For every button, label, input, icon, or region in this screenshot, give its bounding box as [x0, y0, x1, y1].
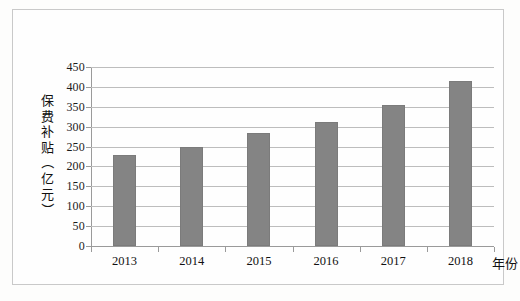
x-tickmark-6: [494, 247, 495, 252]
y-axis-title-char-2: 补: [39, 124, 56, 140]
x-label-2017: 2017: [381, 254, 406, 269]
y-axis-title-char-3: 贴: [39, 140, 56, 156]
y-tick-0: 0: [79, 239, 85, 254]
y-axis-title: 保费补贴（亿元）: [39, 93, 56, 218]
bar-2017: [382, 105, 405, 246]
gridline-200: [91, 166, 494, 167]
bar-2014: [180, 147, 203, 246]
x-axis-tick-labels: 201320142015201620172018: [91, 254, 494, 274]
y-axis-title-char-4: （: [40, 155, 56, 172]
x-tickmark-3: [293, 247, 294, 252]
bar-2015: [247, 133, 270, 246]
y-axis-title-char-0: 保: [39, 93, 56, 109]
y-tick-50: 50: [73, 219, 85, 234]
x-tickmark-0: [91, 247, 92, 252]
gridline-300: [91, 127, 494, 128]
y-tick-250: 250: [66, 139, 85, 154]
x-label-2015: 2015: [246, 254, 271, 269]
y-tick-150: 150: [66, 179, 85, 194]
gridline-50: [91, 226, 494, 227]
y-axis-title-char-1: 费: [39, 109, 56, 125]
x-axis-title: 年份: [492, 253, 518, 272]
gridline-150: [91, 186, 494, 187]
bar-2016: [315, 122, 338, 246]
plot-area: [91, 67, 494, 246]
x-tickmark-2: [225, 247, 226, 252]
x-label-2016: 2016: [314, 254, 339, 269]
x-label-2014: 2014: [179, 254, 204, 269]
x-tickmark-5: [427, 247, 428, 252]
y-axis-title-char-7: ）: [40, 201, 56, 218]
y-axis-title-char-5: 亿: [39, 171, 56, 187]
x-label-2018: 2018: [448, 254, 473, 269]
chart-frame: 050100150200250300350400450 201320142015…: [12, 9, 504, 285]
gridline-100: [91, 206, 494, 207]
x-tickmark-1: [158, 247, 159, 252]
bar-2013: [113, 155, 136, 246]
y-tick-200: 200: [66, 159, 85, 174]
gridline-400: [91, 87, 494, 88]
y-tick-450: 450: [66, 60, 85, 75]
y-tick-300: 300: [66, 119, 85, 134]
bar-2018: [449, 81, 472, 246]
y-tick-400: 400: [66, 79, 85, 94]
x-axis-tickmarks: [91, 247, 494, 253]
gridline-250: [91, 147, 494, 148]
x-tickmark-4: [360, 247, 361, 252]
gridline-450: [91, 67, 494, 68]
x-label-2013: 2013: [112, 254, 137, 269]
y-axis-title-char-6: 元: [39, 187, 56, 203]
y-tick-350: 350: [66, 99, 85, 114]
y-tick-100: 100: [66, 199, 85, 214]
gridline-350: [91, 107, 494, 108]
